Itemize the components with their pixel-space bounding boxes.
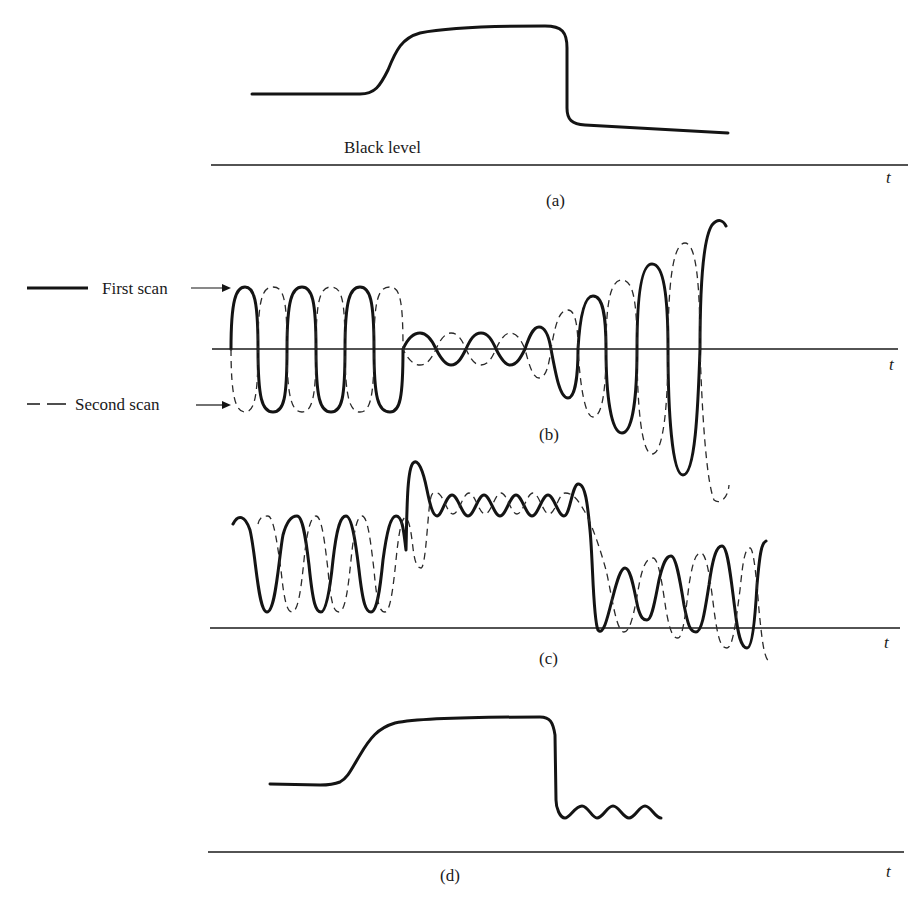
signal-a bbox=[252, 26, 728, 133]
second-scan-c bbox=[258, 493, 770, 662]
legend-first-scan: First scan bbox=[102, 279, 168, 298]
panel-label-a: (a) bbox=[546, 191, 565, 210]
panel-label-b: (b) bbox=[539, 425, 559, 444]
axis-t-label-d: t bbox=[886, 862, 892, 881]
axis-t-label-a: t bbox=[886, 168, 892, 187]
panel-d: t (d) bbox=[208, 717, 904, 885]
arrow-head-icon bbox=[222, 401, 231, 409]
panel-b: t (b) bbox=[212, 221, 898, 502]
average-signal-d bbox=[270, 717, 661, 818]
panel-label-d: (d) bbox=[440, 866, 460, 885]
arrow-head-icon bbox=[222, 284, 231, 292]
black-level-annotation: Black level bbox=[344, 138, 421, 157]
legend-second-scan: Second scan bbox=[75, 395, 160, 414]
figure: Black level t (a) First scan Second scan… bbox=[0, 0, 919, 910]
panel-label-c: (c) bbox=[539, 649, 558, 668]
legend: First scan Second scan bbox=[27, 279, 231, 414]
panel-a: Black level t (a) bbox=[211, 26, 908, 210]
second-scan-b bbox=[231, 243, 729, 502]
axis-t-label-b: t bbox=[889, 355, 895, 374]
axis-t-label-c: t bbox=[884, 633, 890, 652]
first-scan-b bbox=[231, 221, 726, 475]
panel-c: t (c) bbox=[210, 462, 900, 668]
first-scan-c bbox=[233, 462, 766, 648]
